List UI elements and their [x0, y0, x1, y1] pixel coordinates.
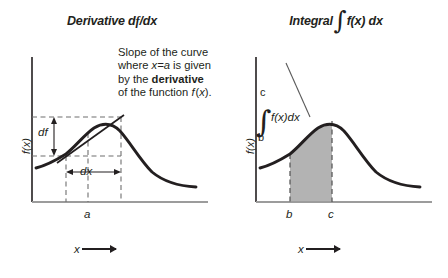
dx-arrow-head-right — [114, 169, 121, 175]
xlabel-integral: x — [298, 243, 340, 255]
df-arrow-head-up — [51, 117, 57, 124]
integral-lower-limit: b — [258, 131, 264, 143]
panel-integral: Integral∫f(x) dx Area under the curve be… — [224, 0, 448, 278]
derivative-svg — [0, 55, 224, 230]
xtick-label-c: c — [328, 208, 334, 220]
panel-title-integral-prefix: Integral — [289, 14, 333, 28]
xlabel-derivative: x — [74, 243, 116, 255]
ylabel-integral: f(x) — [244, 126, 256, 166]
integral-upper-limit: c — [260, 86, 266, 98]
ylabel-derivative: f(x) — [20, 126, 32, 166]
xlabel-derivative-text: x — [74, 243, 80, 255]
panel-derivative: Derivative df/dx Slope of the curve wher… — [0, 0, 224, 278]
df-arrow-head-down — [51, 149, 57, 156]
xtick-label-a: a — [84, 208, 90, 220]
figure-container: Derivative df/dx Slope of the curve wher… — [0, 0, 448, 278]
leader-line-integral — [286, 63, 310, 117]
integral-integrand: f(x)dx — [271, 111, 300, 123]
annotation-df: df — [38, 126, 48, 138]
integral-sign-icon: ∫ — [334, 6, 347, 35]
xtick-label-b: b — [286, 208, 292, 220]
plot-derivative — [0, 55, 224, 230]
tangent-line — [57, 115, 124, 163]
x-axis-arrow-icon — [306, 248, 340, 250]
panel-title-derivative-prefix: Derivative d — [67, 14, 135, 28]
xlabel-integral-text: x — [298, 243, 304, 255]
panel-title-derivative-suffix: /dx — [139, 14, 156, 28]
panel-title-derivative: Derivative df/dx — [0, 14, 224, 29]
annotation-dx: dx — [80, 165, 92, 177]
curve-fx-integral — [260, 124, 420, 187]
panel-title-integral-suffix: f(x) dx — [347, 14, 383, 28]
x-axis-arrow-icon — [82, 248, 116, 250]
panel-title-integral: Integral∫f(x) dx — [224, 14, 448, 28]
dx-arrow-head-left — [66, 169, 73, 175]
